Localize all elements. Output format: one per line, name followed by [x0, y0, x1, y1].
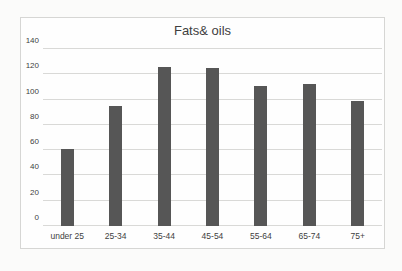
bar-slot: [285, 49, 333, 226]
bar-slot: [91, 49, 139, 226]
x-axis-labels: under 2525-3435-4445-5455-6465-7475+: [43, 231, 382, 241]
bar: [206, 68, 219, 226]
bar-slot: [188, 49, 236, 226]
bar-slot: [43, 49, 91, 226]
x-tick-label: 55-64: [237, 231, 285, 241]
y-tick-label: 20: [15, 189, 39, 197]
y-tick-label: 60: [15, 138, 39, 146]
x-tick-label: 35-44: [140, 231, 188, 241]
bar: [109, 106, 122, 226]
bar: [254, 86, 267, 226]
bar-series: [43, 49, 382, 226]
x-tick-label: 75+: [334, 231, 382, 241]
x-tick-label: 45-54: [188, 231, 236, 241]
bar-slot: [334, 49, 382, 226]
bar: [351, 101, 364, 226]
y-tick-label: 0: [15, 214, 39, 222]
x-tick-label: 25-34: [91, 231, 139, 241]
bar: [303, 84, 316, 226]
bar-chart-frame: Fats& oils 020406080100120140 under 2525…: [20, 17, 385, 249]
chart-title: Fats& oils: [21, 23, 384, 38]
chart-canvas: Fats& oils 020406080100120140 under 2525…: [0, 0, 402, 271]
y-tick-label: 80: [15, 113, 39, 121]
bar: [61, 149, 74, 226]
plot-area: 020406080100120140 under 2525-3435-4445-…: [43, 49, 382, 226]
y-tick-label: 40: [15, 163, 39, 171]
y-tick-label: 140: [15, 37, 39, 45]
x-tick-label: 65-74: [285, 231, 333, 241]
bar: [158, 67, 171, 226]
y-tick-label: 100: [15, 88, 39, 96]
bar-slot: [237, 49, 285, 226]
bar-slot: [140, 49, 188, 226]
y-tick-label: 120: [15, 62, 39, 70]
x-tick-label: under 25: [43, 231, 91, 241]
